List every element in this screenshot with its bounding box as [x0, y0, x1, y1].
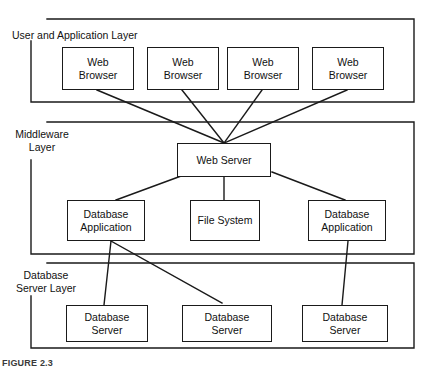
link-browser2-webserver: [182, 90, 224, 143]
middleware-layer-label-line1: Middleware: [15, 128, 69, 140]
link-dbappleft-dbserver1: [104, 241, 111, 305]
file-system: File System: [190, 200, 260, 241]
database-server-layer-label-line1: Database: [24, 269, 69, 281]
database-application-left: Database Application: [67, 200, 145, 241]
link-dbappleft-dbserver2: [111, 241, 222, 303]
middleware-layer-label: MiddlewareLayer: [6, 128, 78, 153]
figure-caption: FIGURE 2.3: [2, 358, 53, 368]
user-application-layer-label: User and Application Layer: [12, 29, 138, 42]
database-server-layer-label: DatabaseServer Layer: [4, 269, 88, 294]
web-browser-1: Web Browser: [62, 47, 134, 90]
web-browser-4: Web Browser: [312, 47, 384, 90]
link-browser1-webserver: [97, 90, 224, 143]
link-webserver-dbapp-right: [272, 172, 345, 200]
web-browser-2: Web Browser: [147, 47, 219, 90]
database-server-1: Database Server: [66, 305, 148, 342]
middleware-layer-label-line2: Layer: [29, 141, 55, 153]
link-dbappright-dbserver3: [342, 241, 348, 305]
architecture-diagram: User and Application Layer MiddlewareLay…: [0, 0, 434, 368]
database-application-right: Database Application: [308, 200, 386, 241]
database-server-2: Database Server: [182, 305, 272, 342]
database-server-layer-label-line2: Server Layer: [16, 282, 76, 294]
web-browser-3: Web Browser: [227, 47, 299, 90]
web-server: Web Server: [177, 143, 271, 177]
database-server-3: Database Server: [302, 305, 388, 342]
